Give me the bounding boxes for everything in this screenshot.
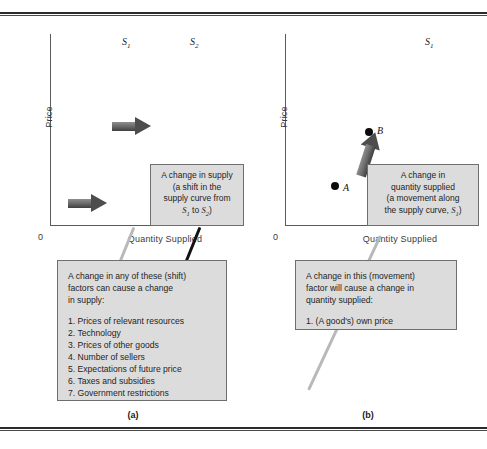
callout-a-s1: S1 [182,205,190,215]
curve-label-s1-a: S1 [122,36,131,50]
listbox-b-intro-line2: factor will cause a change in [306,282,446,294]
data-point-label-b: B [377,125,383,136]
arrow-shaft [68,199,93,208]
figure-frame: Price Quantity Supplied 0 S1 S2 [0,0,487,449]
x-axis-label-a: Quantity Supplied [90,234,240,244]
callout-box-a: A change in supply (a shift in the suppl… [150,164,244,226]
listbox-a-intro-line2: factors can cause a change [68,282,216,294]
list-item: 3. Prices of other goods [68,339,216,351]
origin-label-b: 0 [273,232,278,242]
data-point-label-a: A [343,182,349,193]
factors-listbox-a: A change in any of these (shift) factors… [57,260,227,401]
listbox-b-intro-line1: A change in this (movement) [306,270,446,282]
listbox-a-items: 1. Prices of relevant resources 2. Techn… [68,315,216,399]
factors-listbox-b: A change in this (movement) factor will … [295,260,457,330]
callout-b-line2: quantity supplied [391,182,455,192]
y-axis-label-a: Price [44,82,54,152]
arrow-head [91,194,107,212]
list-item: 5. Expectations of future price [68,363,216,375]
callout-b-line1: A change in [401,170,445,180]
callout-b-suffix: ) [459,205,462,215]
callout-a-s2: S2 [201,205,209,215]
list-item: 1. Prices of relevant resources [68,315,216,327]
callout-a-suffix: ) [209,205,212,215]
list-item: 6. Taxes and subsidies [68,375,216,387]
plot-area-b: Price Quantity Supplied 0 S1 A B A chang… [285,34,477,226]
panel-caption-a: (a) [22,410,244,420]
curve-label-s1-b-sub: 1 [430,42,434,50]
curve-label-s1-b: S1 [425,36,434,50]
list-item: 7. Government restrictions [68,387,216,399]
arrow-head [135,117,151,135]
shift-arrow-lower-icon [68,194,108,213]
rule-thin-line [0,430,487,431]
callout-a-line1: A change in supply [161,170,232,180]
origin-label-a: 0 [38,232,43,242]
curve-label-s2-a-sub: 2 [195,42,199,50]
plot-area-a: Price Quantity Supplied 0 S1 S2 [50,34,242,226]
arrow-shaft [112,122,137,131]
panel-a: Price Quantity Supplied 0 S1 S2 [22,28,244,428]
listbox-b-intro: A change in this (movement) factor will … [306,270,446,306]
panel-caption-b: (b) [257,410,479,420]
callout-box-b: A change in quantity supplied (a movemen… [367,164,479,226]
callout-a-line2: (a shift in the [173,182,222,192]
data-point-b [365,128,373,136]
y-axis-label-b: Price [279,82,289,152]
data-point-a [331,182,339,190]
listbox-a-intro-line1: A change in any of these (shift) [68,270,216,282]
x-axis-label-b: Quantity Supplied [325,234,475,244]
bottom-border-rule [0,427,487,431]
list-item: 1. (A good's) own price [306,315,446,327]
list-item: 4. Number of sellers [68,351,216,363]
list-item: 2. Technology [68,327,216,339]
listbox-a-intro-line3: in supply: [68,294,216,306]
shift-arrow-upper-icon [112,117,152,136]
callout-a-mid: to [190,205,202,215]
listbox-b-intro-line3: quantity supplied: [306,294,446,306]
rule-thin-line [0,15,487,16]
listbox-a-intro: A change in any of these (shift) factors… [68,270,216,306]
callout-b-line3: (a movement along [387,193,460,203]
callout-b-line4-prefix: the supply curve, [385,205,452,215]
panel-b: Price Quantity Supplied 0 S1 A B A chang… [257,28,479,428]
callout-b-s1: S1 [451,205,459,215]
curve-label-s2-a: S2 [190,36,199,50]
listbox-b-items: 1. (A good's) own price [306,315,446,327]
top-border-rule [0,12,487,16]
curve-label-s1-a-sub: 1 [127,42,131,50]
callout-a-line3: supply curve from [163,193,230,203]
